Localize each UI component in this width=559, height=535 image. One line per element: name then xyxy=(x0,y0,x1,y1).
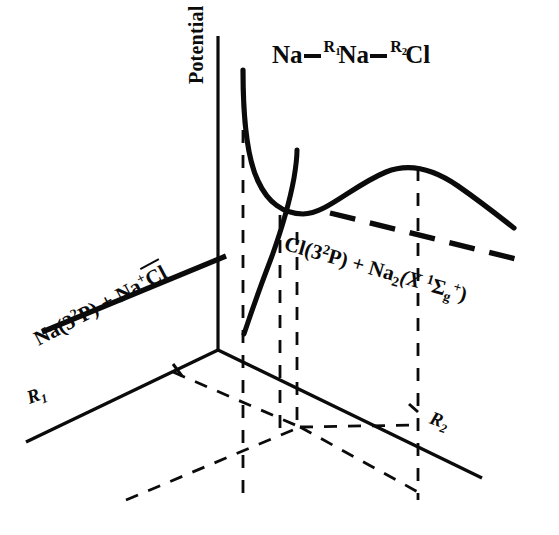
formula-bond-2 xyxy=(370,54,387,58)
floor-dash-lower-left xyxy=(126,427,300,500)
potential-energy-diagram-svg xyxy=(0,0,559,535)
molecular-formula: NaR1NaR2Cl xyxy=(272,42,430,68)
reactant-potential-curve xyxy=(243,70,514,228)
floor-dash-corner-to-r2 xyxy=(300,425,418,427)
formula-bond-1-tag: R1 xyxy=(324,38,341,55)
formula-bond-2-tag-sub: 2 xyxy=(402,45,407,57)
formula-bond-1-tag-letter: R xyxy=(324,38,336,55)
formula-atom-2: Na xyxy=(339,41,370,68)
r1-axis xyxy=(26,350,218,442)
figure-canvas: Potential Energy NaR1NaR2Cl Na(32P) + Na… xyxy=(0,0,559,535)
formula-bond-1-tag-sub: 1 xyxy=(335,45,340,57)
formula-bond-2-tag-letter: R xyxy=(390,38,402,55)
floor-projection-lines xyxy=(126,372,418,500)
formula-atom-1: Na xyxy=(272,41,303,68)
axis-frame xyxy=(26,36,482,478)
vertical-axis-title: Potential Energy xyxy=(186,0,206,84)
formula-bond-1 xyxy=(304,54,321,58)
formula-atom-3: Cl xyxy=(405,41,430,68)
formula-bond-2-tag: R2 xyxy=(390,38,407,55)
